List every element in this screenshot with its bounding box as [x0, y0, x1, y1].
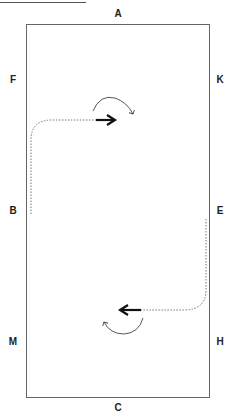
path-from-e	[141, 219, 206, 310]
clockwise-turn-top-icon	[93, 97, 133, 114]
arrow-left-icon	[120, 305, 141, 315]
movement-overlay	[0, 0, 237, 419]
arrow-right-icon	[96, 115, 115, 125]
clockwise-turn-bottom-icon	[104, 318, 143, 334]
path-from-b	[31, 120, 96, 214]
